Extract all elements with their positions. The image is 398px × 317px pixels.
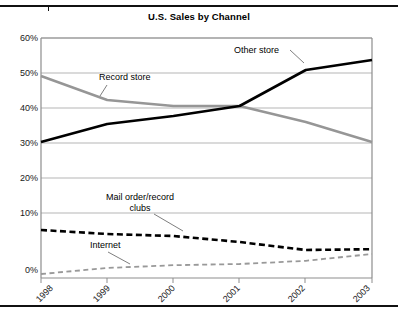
leader-line-record-store xyxy=(100,85,107,96)
leader-line-mail-order xyxy=(154,214,183,231)
chart-plot-area xyxy=(0,0,398,317)
series-line-internet xyxy=(41,254,372,274)
series-line-record-store xyxy=(41,76,372,142)
series-lines xyxy=(41,60,372,274)
chart-figure: U.S. Sales by Channel 60% 50% 40% 30% 20… xyxy=(0,0,398,317)
leader-line-internet xyxy=(108,252,130,264)
leader-line-other-store xyxy=(290,50,304,63)
series-line-mail-order xyxy=(41,230,372,250)
annotation-leader-lines xyxy=(100,50,304,264)
page-bottom-rule xyxy=(0,305,398,307)
gridlines xyxy=(41,38,372,213)
series-line-other-store xyxy=(41,60,372,142)
plot-frame xyxy=(41,38,372,278)
x-axis-ticks xyxy=(41,278,372,283)
